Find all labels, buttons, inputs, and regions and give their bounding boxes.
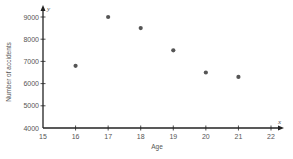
x-axis-letter: x bbox=[277, 118, 282, 126]
y-axis-title: Number of accidents bbox=[5, 41, 12, 101]
scatter-chart: 1516171819202122400050006000700080009000… bbox=[0, 0, 293, 159]
data-point bbox=[139, 26, 143, 30]
y-tick-label: 9000 bbox=[23, 14, 39, 21]
x-tick-label: 21 bbox=[235, 133, 243, 140]
x-axis-title: Age bbox=[151, 143, 163, 151]
data-point bbox=[106, 15, 110, 19]
x-tick-label: 22 bbox=[267, 133, 275, 140]
x-tick-label: 18 bbox=[137, 133, 145, 140]
axes bbox=[41, 5, 285, 131]
y-tick-label: 8000 bbox=[23, 36, 39, 43]
y-tick-label: 6000 bbox=[23, 80, 39, 87]
x-tick-label: 19 bbox=[169, 133, 177, 140]
x-tick-label: 20 bbox=[202, 133, 210, 140]
data-points bbox=[73, 15, 240, 79]
x-tick-label: 17 bbox=[104, 133, 112, 140]
y-axis-arrow-icon bbox=[41, 5, 46, 11]
data-point bbox=[204, 70, 208, 74]
y-tick-label: 5000 bbox=[23, 102, 39, 109]
y-tick-label: 7000 bbox=[23, 58, 39, 65]
y-tick-label: 4000 bbox=[23, 125, 39, 132]
data-point bbox=[236, 75, 240, 79]
data-point bbox=[171, 48, 175, 52]
x-tick-label: 16 bbox=[72, 133, 80, 140]
y-axis-letter: y bbox=[46, 5, 51, 13]
data-point bbox=[73, 64, 77, 68]
x-axis-arrow-icon bbox=[278, 126, 284, 131]
x-tick-label: 15 bbox=[39, 133, 47, 140]
